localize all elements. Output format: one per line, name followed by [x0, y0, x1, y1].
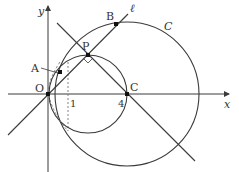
label-y: y	[37, 5, 45, 18]
point-P	[86, 53, 90, 57]
tick-label-4: 4	[118, 98, 124, 109]
tick-label-1: 1	[70, 98, 76, 109]
geometry-figure: y x O A P B ℓ C C 1 4	[0, 0, 239, 172]
label-circle-C: C	[164, 20, 173, 33]
point-A	[58, 70, 62, 74]
point-B	[114, 22, 118, 26]
leader-A	[41, 68, 58, 73]
point-O	[46, 92, 50, 96]
label-B: B	[106, 10, 114, 23]
line-l	[8, 14, 128, 135]
label-O: O	[35, 82, 44, 95]
label-P: P	[82, 40, 90, 53]
diagram-canvas: y x O A P B ℓ C C 1 4	[0, 0, 239, 172]
point-C	[125, 92, 129, 96]
label-l: ℓ	[130, 2, 135, 15]
right-angle-marker	[84, 59, 92, 63]
label-point-C: C	[130, 81, 138, 94]
label-A: A	[30, 62, 40, 75]
label-x: x	[224, 98, 231, 111]
